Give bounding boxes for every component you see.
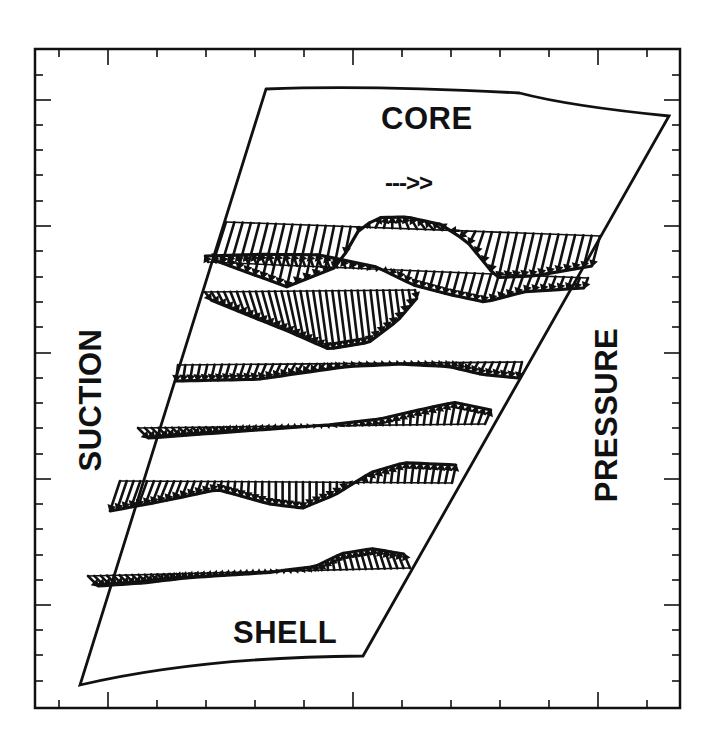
vector-row-station-5	[138, 403, 492, 438]
vector-row-station-6	[109, 463, 458, 511]
core-label: CORE	[381, 103, 473, 134]
plot-frame	[35, 49, 680, 708]
station-baseline	[120, 481, 452, 483]
flow-direction-arrow-icon: --->>	[385, 171, 432, 195]
suction-label: SUCTION	[75, 329, 106, 472]
duct-boundary	[80, 88, 669, 685]
vector-row-station-4	[173, 361, 522, 381]
pressure-label: PRESSURE	[591, 328, 622, 503]
vector-row-station-3	[205, 290, 419, 349]
velocity-vectors	[88, 217, 600, 586]
vector-row-station-7	[88, 549, 410, 586]
duct-outline	[80, 88, 669, 685]
frame-border	[35, 49, 680, 708]
shell-label: SHELL	[233, 617, 337, 648]
